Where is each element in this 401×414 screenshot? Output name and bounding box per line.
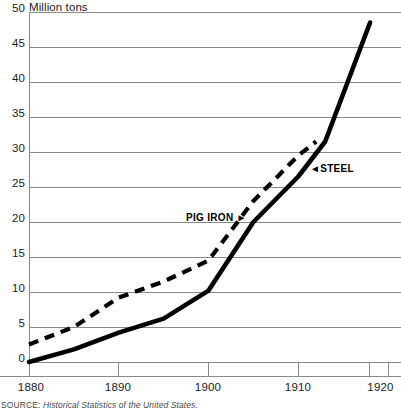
series-annotation-steel: ◄STEEL — [310, 163, 354, 174]
chart-container: Million tons 50 45 40 35 30 25 20 15 10 … — [0, 0, 401, 414]
pig-iron-arrow-icon: ► — [237, 212, 247, 223]
source-key: SOURCE: — [1, 400, 40, 410]
source-value: Historical Statistics of the United Stat… — [43, 400, 198, 410]
steel-arrow-icon: ◄ — [310, 163, 320, 174]
series-line-steel — [29, 23, 370, 363]
source-note: SOURCE: Historical Statistics of the Uni… — [1, 400, 198, 410]
pig-iron-label-text: PIG IRON — [186, 212, 233, 223]
steel-label-text: STEEL — [320, 163, 354, 174]
plot-area — [0, 0, 401, 414]
series-annotation-pig-iron: PIG IRON ► — [186, 212, 247, 223]
